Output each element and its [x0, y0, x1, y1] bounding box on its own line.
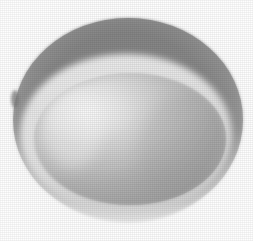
image-canvas: Grayscale photograph of a hemispherical …: [0, 0, 253, 241]
bowl-illustration: [0, 0, 253, 241]
